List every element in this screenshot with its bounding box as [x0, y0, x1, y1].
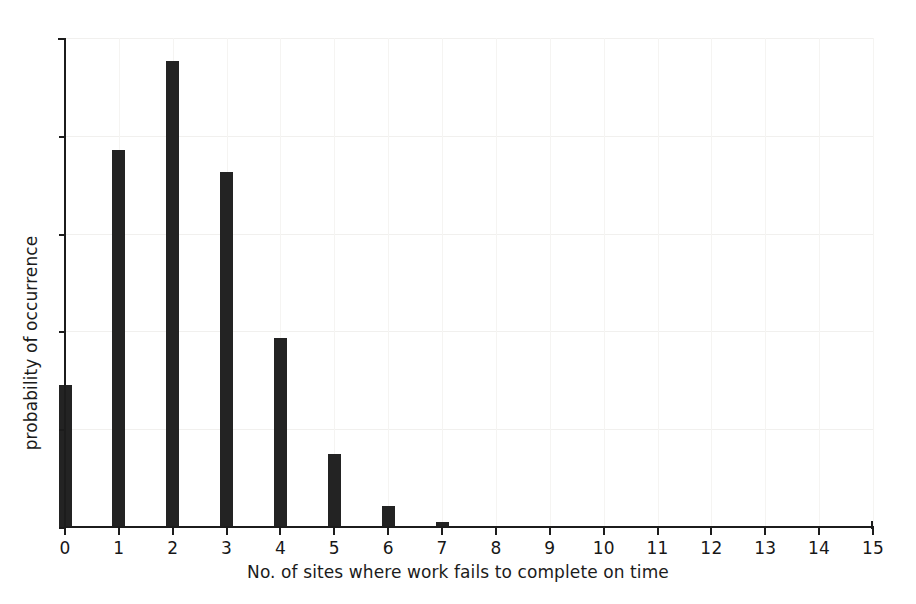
gridline-vertical — [765, 38, 766, 527]
gridline-horizontal — [65, 234, 873, 235]
x-axis-tick-label: 0 — [45, 538, 85, 558]
x-axis-tick-label: 1 — [99, 538, 139, 558]
x-axis-tick-label: 14 — [799, 538, 839, 558]
plot-area — [65, 38, 873, 527]
gridline-vertical — [873, 38, 874, 527]
x-axis-tick-label: 15 — [853, 538, 893, 558]
x-axis-tick-label: 10 — [584, 538, 624, 558]
gridline-horizontal — [65, 331, 873, 332]
bar — [382, 506, 395, 527]
x-axis-tick — [441, 528, 443, 535]
x-axis-tick-label: 7 — [422, 538, 462, 558]
x-axis-tick — [387, 528, 389, 535]
x-axis-tick-label: 5 — [314, 538, 354, 558]
bar — [220, 172, 233, 527]
x-axis-tick — [172, 528, 174, 535]
gridline-horizontal — [65, 38, 873, 39]
x-axis-tick-label: 4 — [260, 538, 300, 558]
x-axis-tick-label: 3 — [207, 538, 247, 558]
x-axis-tick — [657, 528, 659, 535]
x-axis-tick — [818, 528, 820, 535]
y-axis-tick — [59, 429, 66, 431]
x-axis-tick-label: 6 — [368, 538, 408, 558]
gridline-vertical — [550, 38, 551, 527]
y-axis-tick — [59, 38, 66, 40]
chart-figure: No. of sites where work fails to complet… — [0, 0, 916, 604]
bar — [112, 150, 125, 527]
gridline-vertical — [819, 38, 820, 527]
x-axis-tick — [872, 528, 874, 535]
x-axis-tick-label: 11 — [638, 538, 678, 558]
gridline-vertical — [604, 38, 605, 527]
x-axis-tick-label: 8 — [476, 538, 516, 558]
gridline-vertical — [388, 38, 389, 527]
y-axis-tick — [59, 136, 66, 138]
gridline-vertical — [658, 38, 659, 527]
x-axis-tick — [226, 528, 228, 535]
x-axis-tick — [118, 528, 120, 535]
gridline-horizontal — [65, 136, 873, 137]
x-axis-tick — [333, 528, 335, 535]
x-axis-tick — [549, 528, 551, 535]
y-axis-line — [64, 38, 66, 528]
gridline-vertical — [496, 38, 497, 527]
y-axis-title: probability of occurrence — [21, 193, 41, 493]
gridline-vertical — [711, 38, 712, 527]
bar — [328, 454, 341, 527]
x-axis-line — [64, 526, 874, 528]
gridline-horizontal — [65, 429, 873, 430]
x-axis-tick — [279, 528, 281, 535]
bar — [274, 338, 287, 527]
x-axis-title: No. of sites where work fails to complet… — [0, 562, 916, 582]
x-axis-tick — [710, 528, 712, 535]
bar — [166, 61, 179, 527]
y-axis-tick — [59, 234, 66, 236]
x-axis-tick-label: 9 — [530, 538, 570, 558]
x-axis-tick — [603, 528, 605, 535]
x-axis-tick-label: 13 — [745, 538, 785, 558]
x-axis-tick — [64, 528, 66, 535]
y-axis-tick — [59, 331, 66, 333]
gridline-vertical — [442, 38, 443, 527]
x-axis-tick-label: 2 — [153, 538, 193, 558]
x-axis-tick — [764, 528, 766, 535]
x-axis-tick — [495, 528, 497, 535]
x-axis-tick-label: 12 — [691, 538, 731, 558]
